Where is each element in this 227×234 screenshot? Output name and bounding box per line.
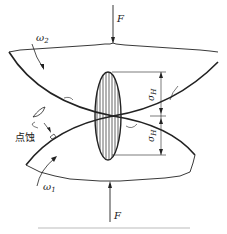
upper-body bbox=[9, 43, 218, 116]
contact-stress-diagram: F F ω2 ω1 bbox=[0, 0, 227, 234]
force-arrow-top: F bbox=[111, 5, 125, 44]
omega1-label: ω1 bbox=[43, 181, 56, 194]
pitting-label: 点蚀 bbox=[15, 131, 35, 143]
force-arrow-bottom: F bbox=[108, 181, 122, 222]
stress-dimension: σH σH bbox=[112, 72, 166, 155]
rotation-omega1: ω1 bbox=[37, 156, 57, 194]
force-label-top: F bbox=[116, 13, 125, 24]
lower-body bbox=[26, 116, 195, 181]
stress-label-lower: σH bbox=[146, 129, 158, 142]
pitting-callout: 点蚀 bbox=[15, 107, 56, 143]
force-label-bottom: F bbox=[113, 210, 122, 221]
rotation-omega2: ω2 bbox=[32, 32, 49, 70]
omega2-label: ω2 bbox=[36, 32, 49, 45]
stress-label-upper: σH bbox=[146, 88, 158, 101]
